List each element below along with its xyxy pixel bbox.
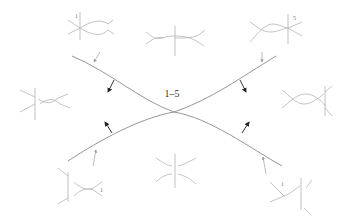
svg-text:1: 1 [75,13,78,19]
lower-left-curve [68,112,174,161]
inset-top-left: 1 [68,12,114,40]
svg-text:5: 5 [293,15,296,21]
svg-text:1: 1 [100,187,103,193]
diagram-canvas: 1–5 1 5 [0,0,348,224]
pointer-top-left [94,52,100,62]
inset-bottom-center [156,154,196,188]
pointer-bottom-right [263,157,266,174]
arrow-lower-right [242,122,249,133]
upper-right-curve [174,56,276,112]
inset-top-right: 5 [250,14,302,44]
svg-text:1: 1 [281,181,284,187]
arrow-lower-left [105,122,112,133]
center-label: 1–5 [165,88,180,99]
main-curves [68,56,282,166]
upper-left-curve [72,56,174,112]
inset-bottom-left: 1 [58,168,103,204]
arrow-upper-right [240,80,246,92]
inset-middle-right [282,86,332,116]
inset-middle-left [20,88,70,120]
arrow-upper-left [108,80,114,92]
lower-right-curve [174,112,282,166]
pointer-bottom-left [93,150,96,166]
inset-bottom-right: 1 [270,178,312,214]
inset-top-center [146,26,205,56]
